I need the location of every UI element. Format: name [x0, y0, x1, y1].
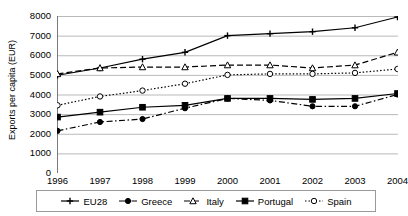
data-point-marker	[57, 103, 60, 108]
data-point-marker	[97, 109, 103, 115]
data-point-marker	[57, 128, 60, 133]
legend-marker-icon	[304, 196, 324, 206]
data-point-marker	[267, 96, 273, 102]
data-point-marker	[182, 102, 188, 108]
data-point-marker	[352, 96, 358, 102]
series-eu28	[57, 16, 398, 78]
legend-label: Spain	[327, 196, 351, 207]
data-point-marker	[394, 49, 398, 55]
legend-label: Portugal	[258, 196, 293, 207]
data-point-marker	[97, 119, 102, 124]
data-point-marker	[225, 72, 230, 77]
legend-label: Greece	[141, 196, 172, 207]
legend-item-italy[interactable]: Italy	[183, 196, 223, 207]
y-axis-tick-label: 5000	[18, 70, 54, 80]
data-point-marker	[225, 96, 231, 102]
y-axis-tick-label: 6000	[18, 50, 54, 60]
legend-marker-icon	[60, 196, 80, 206]
x-axis-tick-label: 1998	[132, 175, 153, 187]
data-point-marker	[140, 116, 145, 121]
x-axis-tick-label: 2003	[344, 175, 365, 187]
legend-item-eu28[interactable]: EU28	[60, 196, 107, 207]
data-point-marker	[242, 198, 248, 204]
data-point-marker	[312, 198, 317, 203]
plot-area	[57, 16, 398, 173]
x-axis-tick-labels: 199619971998199920002001200220032004	[57, 175, 398, 189]
data-point-marker	[267, 71, 272, 76]
y-axis-tick-label: 7000	[18, 31, 54, 41]
legend-item-portugal[interactable]: Portugal	[235, 196, 293, 207]
x-axis-tick-label: 2001	[259, 175, 280, 187]
legend-label: Italy	[206, 196, 223, 207]
data-point-marker	[140, 104, 146, 110]
legend-marker-icon	[118, 196, 138, 206]
data-point-marker	[140, 88, 145, 93]
legend-item-spain[interactable]: Spain	[304, 196, 351, 207]
x-axis-tick-label: 1997	[89, 175, 110, 187]
y-axis-tick-label: 4000	[18, 90, 54, 100]
data-point-marker	[97, 94, 102, 99]
x-axis-tick-label: 1996	[47, 175, 68, 187]
x-axis-tick-label: 1999	[174, 175, 195, 187]
data-point-marker	[310, 71, 315, 76]
y-axis-tick-label: 1000	[18, 148, 54, 158]
legend-marker-icon	[235, 196, 255, 206]
chart-svg	[57, 16, 398, 173]
legend-item-greece[interactable]: Greece	[118, 196, 172, 207]
chart-legend: EU28GreeceItalyPortugalSpain	[36, 190, 376, 212]
data-point-marker	[310, 104, 315, 109]
legend-label: EU28	[83, 196, 107, 207]
x-axis-tick-label: 2002	[302, 175, 323, 187]
y-axis-tick-label: 2000	[18, 129, 54, 139]
series-spain	[57, 66, 398, 108]
data-point-marker	[395, 66, 398, 71]
data-point-marker	[395, 91, 398, 97]
y-axis-tick-labels: 800070006000500040003000200010000	[18, 0, 54, 180]
x-axis-tick-label: 2004	[387, 175, 408, 187]
y-axis-title-text: Exports per capita (EUR)	[7, 40, 17, 140]
data-point-marker	[310, 97, 316, 103]
data-point-marker	[57, 114, 60, 120]
data-point-marker	[352, 70, 357, 75]
x-axis-tick-label: 2000	[217, 175, 238, 187]
data-point-marker	[352, 104, 357, 109]
legend-marker-icon	[183, 196, 203, 206]
data-point-marker	[182, 81, 187, 86]
data-point-marker	[126, 198, 131, 203]
y-axis-tick-label: 8000	[18, 11, 54, 21]
y-axis-tick-label: 3000	[18, 109, 54, 119]
